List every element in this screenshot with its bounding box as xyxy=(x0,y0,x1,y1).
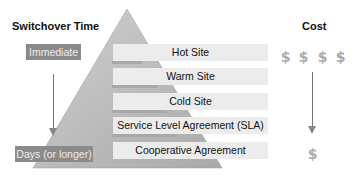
switchover-arrow-head xyxy=(49,128,57,136)
tier-hot-site: Hot Site xyxy=(113,44,268,61)
money-bag-icon: $ xyxy=(316,49,329,65)
cost-arrow-line xyxy=(312,72,313,130)
tier-shadow xyxy=(112,110,167,113)
tier-shadow xyxy=(112,61,142,64)
tier-sla: Service Level Agreement (SLA) xyxy=(113,117,268,134)
cost-arrow-head xyxy=(308,126,316,134)
immediate-label: Immediate xyxy=(26,44,81,60)
money-bag-icon: $ xyxy=(297,49,310,65)
money-bag-icon: $ xyxy=(334,49,347,65)
tier-cooperative-agreement: Cooperative Agreement xyxy=(113,142,268,159)
recovery-options-diagram: Switchover Time Cost Immediate Days (or … xyxy=(0,0,357,195)
tier-warm-site: Warm Site xyxy=(113,68,268,85)
money-bag-icon: $ xyxy=(306,146,319,162)
tier-shadow xyxy=(112,134,177,137)
tier-cold-site: Cold Site xyxy=(113,93,268,110)
tier-shadow xyxy=(112,85,157,88)
days-label: Days (or longer) xyxy=(15,146,93,162)
cost-header: Cost xyxy=(302,20,326,32)
switchover-time-header: Switchover Time xyxy=(12,20,99,32)
switchover-arrow-line xyxy=(53,74,54,131)
money-bag-icon: $ xyxy=(279,49,292,65)
